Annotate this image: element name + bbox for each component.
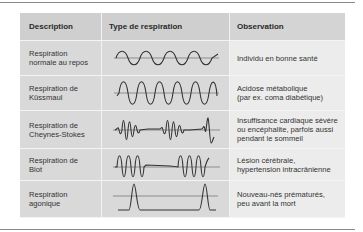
table-row: Respiration de Küssmaul Acidose métaboli… xyxy=(20,76,345,111)
row-description: Respiration de Biot xyxy=(20,149,102,180)
header-description: Description xyxy=(20,13,102,40)
row-observation: Nouveau-nés prématurés, peu avant la mor… xyxy=(230,181,345,217)
agonal-breathing-waveform-icon xyxy=(110,182,222,216)
kussmaul-breathing-waveform-icon xyxy=(111,76,221,110)
row-waveform xyxy=(102,111,230,148)
header-observation: Observation xyxy=(230,13,345,40)
row-observation: Insuffisance cardiaque sévère ou encépha… xyxy=(230,111,345,148)
row-observation: Individu en bonne santé xyxy=(230,41,345,75)
row-description: Respiration de Küssmaul xyxy=(20,76,102,110)
respiration-types-table: Description Type de respiration Observat… xyxy=(20,13,345,218)
header-type: Type de respiration xyxy=(102,13,230,40)
row-waveform xyxy=(102,149,230,180)
biot-breathing-waveform-icon xyxy=(110,150,222,180)
normal-breathing-waveform-icon xyxy=(111,43,221,73)
cheyne-stokes-waveform-icon xyxy=(110,113,222,147)
row-observation: Lésion cérébrale, hypertension intracrân… xyxy=(230,149,345,180)
row-waveform xyxy=(102,41,230,75)
table-row: Respiration de Biot Lésion cérébrale, hy… xyxy=(20,149,345,181)
row-observation: Acidose métabolique (par ex. coma diabét… xyxy=(230,76,345,110)
bottom-rule xyxy=(0,229,355,230)
row-description: Respiration de Cheynes-Stokes xyxy=(20,111,102,148)
table-row: Respiration agonique Nouveau-nés prématu… xyxy=(20,181,345,218)
row-waveform xyxy=(102,181,230,217)
table-row: Respiration normale au repos Individu en… xyxy=(20,41,345,76)
row-waveform xyxy=(102,76,230,110)
row-description: Respiration agonique xyxy=(20,181,102,217)
row-description: Respiration normale au repos xyxy=(20,41,102,75)
table-row: Respiration de Cheynes-Stokes Insuffisan… xyxy=(20,111,345,149)
table-header-row: Description Type de respiration Observat… xyxy=(20,13,345,41)
top-rule xyxy=(0,2,355,3)
